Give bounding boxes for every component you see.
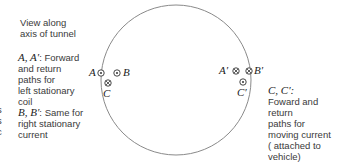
right-legend: C, C′: Foward and return paths for movin… [268,85,331,162]
conductor-a-dot-icon [98,70,104,76]
label-b-prime: B′ [254,65,263,76]
label-a-prime: A′ [219,65,228,76]
legend-a-line: A, A′: Forward [18,52,83,63]
edge-fragments: s s c [0,104,2,137]
conductor-c-prime-dot-icon [240,79,246,85]
label-c-prime: C′ [237,87,247,98]
conductor-a-prime-cross-icon [233,68,239,74]
view-note: View along axis of tunnel [20,17,76,39]
legend-b-line: B, B′: Same for [18,107,83,118]
conductor-b-prime-cross-icon [246,68,252,74]
conductor-c-cross-icon [105,80,111,86]
tunnel-circle [101,5,251,155]
label-a: A [89,67,96,78]
conductor-b-dot-icon [114,70,120,76]
left-legend: A, A′: Forward and return paths for left… [18,52,83,140]
label-c: C [103,88,110,99]
label-b: B [123,67,130,78]
